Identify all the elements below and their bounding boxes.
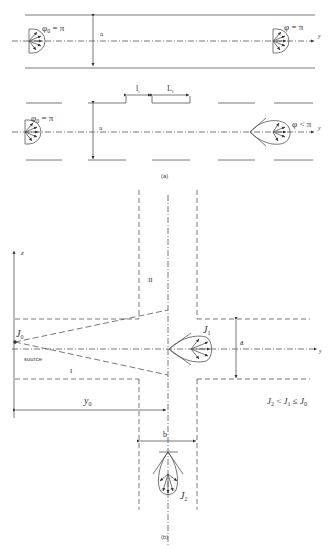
y0-label: y0 — [83, 395, 91, 407]
width-a-label: a — [100, 30, 104, 38]
J0-label: J0 — [16, 328, 23, 340]
phi-less-label: φ < π — [292, 119, 312, 129]
phi0-label: φ0 = π — [42, 23, 65, 34]
diagram-canvas: φ0 = π φ = π a y — [0, 0, 333, 549]
panel-b — [12, 190, 317, 545]
gap-li-label: li — [136, 84, 140, 94]
region-I-label: I — [70, 367, 73, 375]
caption-b: (b) — [161, 534, 168, 540]
segment-Li-label: Li — [167, 84, 174, 94]
region-II-label: II — [148, 276, 153, 284]
width-b-label: b — [163, 430, 167, 439]
width-a-label: a — [99, 124, 103, 132]
panel-a-bottom — [12, 95, 314, 160]
source-point-icon — [14, 341, 17, 344]
emission-fan-icon — [273, 29, 289, 53]
J2-label: J2 — [180, 490, 187, 502]
y-axis-label: y — [317, 33, 321, 39]
y-axis-label: y — [318, 348, 322, 354]
source-label: source — [24, 356, 43, 362]
caption-a: (a) — [161, 173, 168, 179]
J1-label: J1 — [203, 324, 210, 336]
z-axis-label: z — [20, 249, 24, 257]
phi0-label: φ0 = π — [31, 113, 54, 124]
inequality-label: J2 < J1 ≤ J0 — [267, 396, 307, 407]
width-a-label: a — [240, 338, 244, 347]
phi-label: φ = π — [284, 22, 304, 32]
y-axis-label: y — [317, 125, 321, 131]
